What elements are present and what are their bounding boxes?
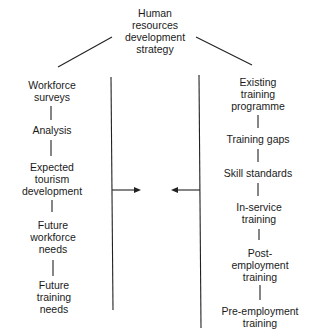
- right-node-pre-employment-training: Pre-employment training: [208, 305, 312, 329]
- left-vertical-bar: [111, 77, 113, 310]
- root-line: development: [105, 31, 205, 43]
- root-line: resources: [105, 19, 205, 31]
- label-line: Existing: [208, 76, 308, 88]
- root-node: Human resources development strategy: [105, 7, 205, 55]
- right-node-skill-standards: Skill standards: [208, 167, 308, 179]
- label-line: Workforce: [2, 79, 102, 91]
- label-line: training: [209, 213, 309, 225]
- right-node-training-gaps: Training gaps: [208, 133, 308, 145]
- label-line: needs: [3, 243, 103, 255]
- label-line: tourism: [2, 173, 102, 185]
- label-line: needs: [4, 303, 104, 315]
- left-node-analysis: Analysis: [2, 124, 102, 136]
- right-node-post-employment-training: Post- employment training: [210, 247, 310, 283]
- label-line: training: [210, 271, 310, 283]
- right-node-in-service-training: In-service training: [209, 201, 309, 225]
- label-line: surveys: [2, 91, 102, 103]
- left-node-workforce-surveys: Workforce surveys: [2, 79, 102, 103]
- label-line: training: [208, 317, 312, 329]
- label-line: training: [4, 291, 104, 303]
- label-line: Future: [4, 279, 104, 291]
- left-arrowhead-icon: [171, 187, 178, 193]
- left-node-expected-tourism-development: Expected tourism development: [2, 161, 102, 197]
- label-line: Skill standards: [208, 167, 308, 179]
- label-line: Future: [3, 219, 103, 231]
- label-line: Analysis: [2, 124, 102, 136]
- label-line: training: [208, 88, 308, 100]
- right-node-existing-training-programme: Existing training programme: [208, 76, 308, 112]
- left-node-future-training-needs: Future training needs: [4, 279, 104, 315]
- label-line: In-service: [209, 201, 309, 213]
- label-line: employment: [210, 259, 310, 271]
- label-line: Pre-employment: [208, 305, 312, 317]
- label-line: Training gaps: [208, 133, 308, 145]
- root-line: Human: [105, 7, 205, 19]
- label-line: workforce: [3, 231, 103, 243]
- right-vertical-bar: [199, 75, 201, 328]
- right-arrowhead-icon: [134, 187, 141, 193]
- label-line: programme: [208, 100, 308, 112]
- label-line: Post-: [210, 247, 310, 259]
- connector-root-left: [58, 37, 112, 67]
- left-node-future-workforce-needs: Future workforce needs: [3, 219, 103, 255]
- root-line: strategy: [105, 43, 205, 55]
- label-line: Expected: [2, 161, 102, 173]
- label-line: development: [2, 185, 102, 197]
